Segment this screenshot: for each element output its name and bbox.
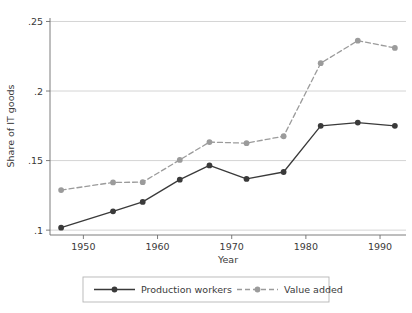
data-point	[355, 120, 361, 126]
y-tick-label: .1	[34, 225, 43, 236]
chart-background	[0, 0, 412, 313]
data-point	[110, 208, 116, 214]
chart-legend: Production workers Value added	[83, 277, 343, 302]
x-tick-label: 1970	[220, 241, 244, 252]
data-point	[318, 123, 324, 129]
data-point	[140, 199, 146, 205]
data-point	[207, 139, 213, 145]
data-point	[110, 180, 116, 186]
data-point	[58, 187, 64, 193]
legend-marker-value-added	[255, 287, 261, 293]
data-point	[392, 45, 398, 51]
y-tick-label: .15	[28, 155, 43, 166]
x-tick-label: 1990	[368, 241, 392, 252]
data-point	[58, 225, 64, 231]
data-point	[207, 163, 213, 169]
x-axis-title: Year	[217, 254, 238, 265]
data-point	[177, 157, 183, 163]
chart-figure: .1.15.2.25 19501960197019801990 Share of…	[0, 0, 412, 313]
x-tick-label: 1960	[145, 241, 169, 252]
y-axis-title: Share of IT goods	[5, 85, 16, 168]
data-point	[355, 38, 361, 44]
legend-label-value-added: Value added	[284, 284, 343, 295]
data-point	[392, 123, 398, 129]
legend-marker-production-workers	[112, 287, 118, 293]
x-tick-label: 1950	[71, 241, 95, 252]
line-chart-svg: .1.15.2.25 19501960197019801990 Share of…	[0, 0, 412, 313]
legend-label-production-workers: Production workers	[141, 284, 232, 295]
data-point	[177, 177, 183, 183]
data-point	[318, 60, 324, 66]
data-point	[140, 179, 146, 185]
y-tick-label: .2	[34, 86, 43, 97]
data-point	[244, 176, 250, 182]
data-point	[281, 133, 287, 139]
data-point	[281, 169, 287, 175]
x-tick-label: 1980	[294, 241, 318, 252]
data-point	[244, 140, 250, 146]
y-tick-label: .25	[28, 16, 43, 27]
